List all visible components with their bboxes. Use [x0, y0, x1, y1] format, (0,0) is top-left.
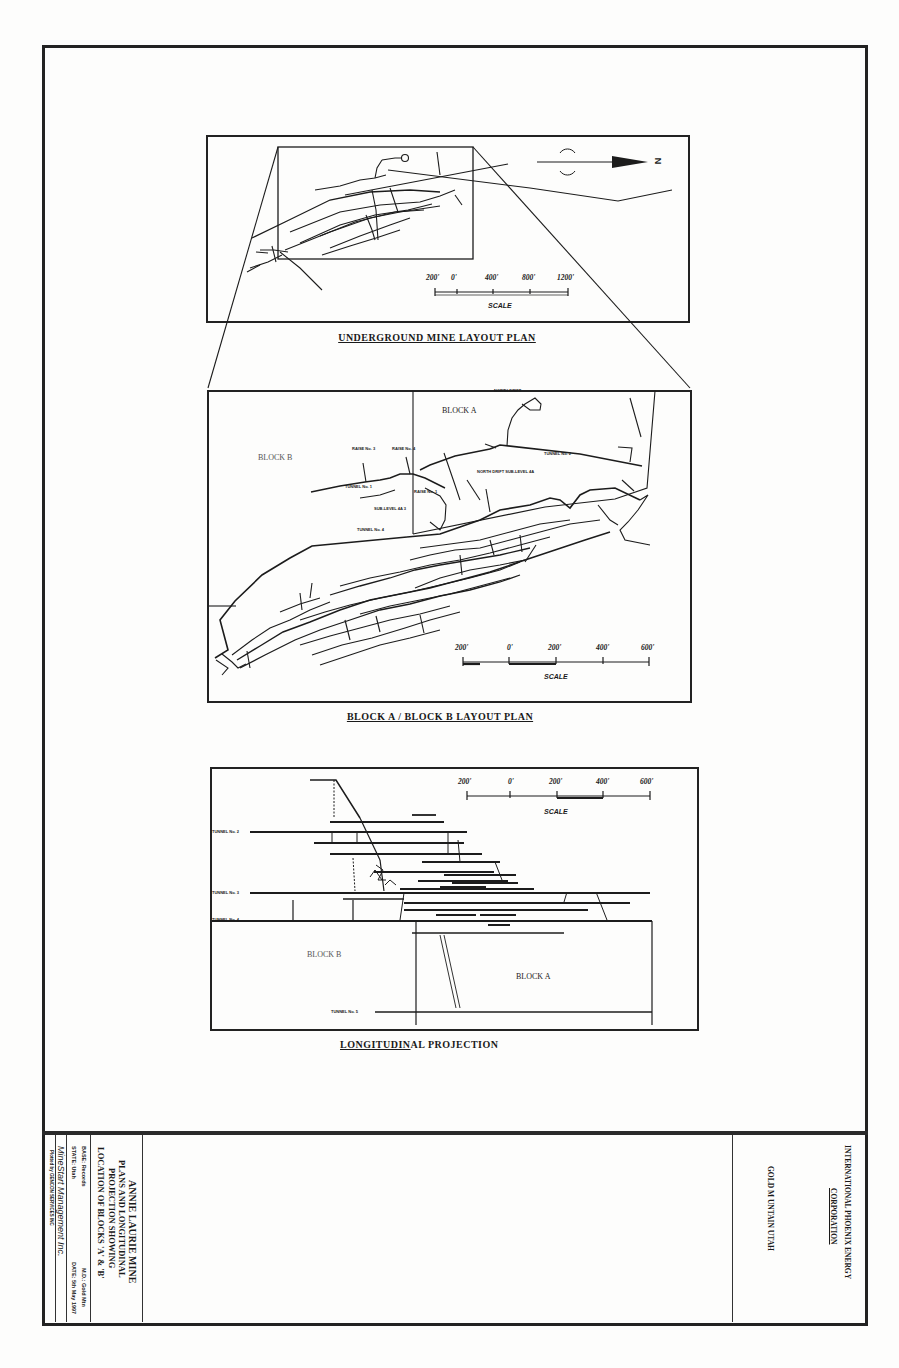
- project-title-line: PLANS AND LONGITUDINAL: [117, 1160, 127, 1278]
- client-name-line-2: CORPORATION: [829, 1188, 838, 1245]
- tunnel-4-label: TUNNEL No. 4: [212, 917, 239, 922]
- longitudinal-title-underlined: LONGITUDIN: [340, 1039, 411, 1050]
- scale-tick: 400': [596, 777, 609, 786]
- longitudinal-drawing: [0, 0, 899, 1100]
- md-field: M.D.: Gold Mtn: [81, 1268, 87, 1307]
- tunnel-2-label: TUNNEL No. 2: [212, 829, 239, 834]
- longitudinal-scale-label: SCALE: [544, 808, 568, 815]
- title-block-separator: [42, 1131, 868, 1135]
- project-title-line: LOCATION OF BLOCKS 'A' & 'B': [96, 1147, 106, 1279]
- scale-tick: 200': [549, 777, 562, 786]
- location-label: GOLD M UNTAIN UTAH: [766, 1166, 775, 1251]
- tunnel-5-label: TUNNEL No. 5: [331, 1009, 358, 1014]
- scale-tick: 0': [508, 777, 514, 786]
- longitudinal-block-b-label: BLOCK B: [307, 950, 341, 959]
- longitudinal-title-rest: AL PROJECTION: [411, 1039, 499, 1050]
- tunnel-3-label: TUNNEL No. 3: [212, 890, 239, 895]
- scale-tick: 600': [640, 777, 653, 786]
- date-field: DATE: 5th May 1997: [71, 1262, 77, 1314]
- title-block-divider: [90, 1135, 91, 1322]
- scale-tick: 200': [458, 777, 471, 786]
- client-name-line-1: INTERNATIONAL PHOENIX ENERGY: [843, 1145, 852, 1279]
- base-field: BASE: Records: [81, 1146, 87, 1187]
- company-signature: MineStart Management Inc.: [56, 1146, 66, 1257]
- longitudinal-block-a-label: BLOCK A: [516, 972, 550, 981]
- longitudinal-title: LONGITUDINAL PROJECTION: [340, 1039, 498, 1050]
- title-block-divider: [66, 1135, 67, 1322]
- plotted-by-field: Plotted by GENCON SERVICES INC: [49, 1150, 54, 1226]
- project-title-line: ANNIE LAURIE MINE: [127, 1180, 138, 1283]
- title-block-divider: [142, 1135, 143, 1322]
- state-field: STATE: Utah: [71, 1146, 77, 1179]
- project-title-line: PROJECTION SHOWING: [107, 1168, 117, 1268]
- title-block-divider: [732, 1135, 733, 1322]
